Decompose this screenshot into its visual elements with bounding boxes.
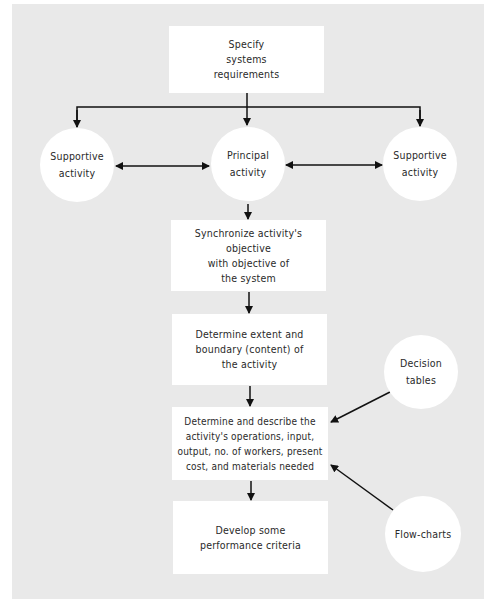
node-flow-charts: Flow-charts: [385, 496, 461, 572]
node-principal-activity: Principal activity: [211, 127, 285, 201]
node-supportive-activity-right: Supportive activity: [383, 127, 457, 201]
node-determine-describe: Determine and describe the activity's op…: [172, 407, 328, 480]
node-specify-requirements: Specify systems requirements: [169, 26, 324, 93]
node-performance-criteria: Develop some performance criteria: [173, 501, 328, 574]
node-decision-tables: Decision tables: [384, 335, 458, 409]
node-determine-extent: Determine extent and boundary (content) …: [172, 314, 327, 385]
node-supportive-activity-left: Supportive activity: [40, 128, 114, 202]
node-synchronize-objective: Synchronize activity's objective with ob…: [171, 220, 326, 291]
